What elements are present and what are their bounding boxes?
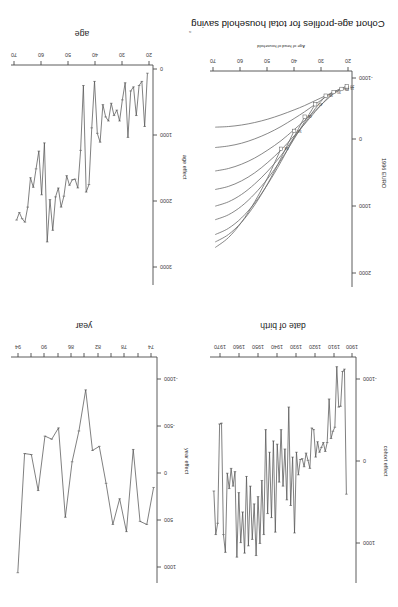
svg-text:60: 60	[237, 58, 243, 64]
year-effect-y-ticks	[157, 379, 161, 567]
svg-text:-1000: -1000	[359, 75, 373, 81]
cohort-profiles-ylabel: 1996 EURO	[381, 158, 387, 189]
svg-text:1900: 1900	[346, 344, 358, 350]
year-effect-y-ticklabels: 1000 500 0 -500 -1000	[164, 376, 178, 570]
cohort-profiles-title: Cohort age-profiles for total household …	[191, 19, 385, 30]
cohort-endpoint-label: 20	[350, 84, 354, 88]
svg-text:1930: 1930	[290, 344, 302, 350]
age-effect-y-ticklabels: 3000 2000 1000 0	[160, 66, 172, 270]
svg-text:1000: 1000	[164, 564, 176, 570]
svg-text:94: 94	[15, 344, 21, 350]
age-effect-points	[15, 73, 148, 242]
svg-text:50: 50	[264, 58, 270, 64]
svg-text:70: 70	[11, 52, 17, 58]
svg-text:50: 50	[65, 52, 71, 58]
svg-text:0: 0	[164, 470, 167, 476]
age-effect-y-ticks	[153, 69, 157, 267]
svg-text:1000: 1000	[363, 540, 375, 546]
cohort-effect-x-ticks	[220, 353, 352, 357]
cohort-endpoint-label: 40	[319, 102, 323, 106]
cohort-profiles-y-ticklabels: 2000 1000 0 -1000	[359, 75, 373, 276]
age-effect-series	[17, 73, 148, 242]
age-effect-plot: 20 30 40 50 60 70 3000 2000 1000 0 age a…	[0, 0, 199, 303]
svg-text:0: 0	[160, 66, 163, 72]
cohort-effect-x-ticklabels: 1900 1910 1920 1930 1940 1950 1960 1970	[214, 344, 358, 350]
svg-text:0: 0	[359, 136, 362, 142]
age-effect-ylabel: age effect	[182, 155, 188, 180]
cohort-endpoint-label: 45	[308, 114, 312, 118]
cohort-effect-y-ticks	[356, 379, 360, 543]
panel-age-effect: 20 30 40 50 60 70 3000 2000 1000 0 age a…	[0, 0, 199, 303]
svg-text:1940: 1940	[271, 344, 283, 350]
cohort-effect-xlabel: date of birth	[260, 321, 306, 331]
svg-text:2000: 2000	[359, 270, 371, 276]
svg-text:40: 40	[92, 52, 98, 58]
cohort-endpoint-marker	[292, 129, 295, 132]
svg-text:90: 90	[41, 344, 47, 350]
cohort-endpoint-marker	[313, 103, 316, 106]
cohort-endpoint-label: 50	[298, 129, 302, 133]
cohort-profiles-xlabel: Age of head of household	[256, 44, 304, 49]
svg-text:30: 30	[119, 52, 125, 58]
svg-text:1000: 1000	[359, 203, 371, 209]
svg-text:60: 60	[38, 52, 44, 58]
age-effect-x-ticks	[14, 61, 149, 65]
year-effect-plot: 74 78 82 86 90 94 1000 500 0 -500 -1000	[0, 303, 199, 607]
panel-cohort-effect: 1900 1910 1920 1930 1940 1950 1960 1970 …	[199, 303, 398, 607]
svg-text:82: 82	[95, 344, 101, 350]
cohort-curve	[215, 149, 281, 248]
cohort-curve	[215, 117, 304, 235]
cohort-curve	[215, 92, 333, 190]
svg-text:1910: 1910	[328, 344, 340, 350]
figure-grid: 1900 1910 1920 1930 1940 1950 1960 1970 …	[0, 0, 398, 607]
cohort-effect-plot: 1900 1910 1920 1930 1940 1950 1960 1970 …	[199, 303, 398, 607]
cohort-profiles-x-ticks	[213, 67, 348, 71]
svg-text:-1000: -1000	[164, 376, 178, 382]
svg-text:1970: 1970	[214, 344, 226, 350]
year-effect-x-ticks	[18, 353, 151, 357]
svg-text:30: 30	[318, 58, 324, 64]
svg-text:20: 20	[146, 52, 152, 58]
svg-text:74: 74	[148, 344, 154, 350]
svg-text:1000: 1000	[160, 132, 172, 138]
rotated-figure-wrapper: 1900 1910 1920 1930 1940 1950 1960 1970 …	[0, 0, 398, 607]
svg-text:78: 78	[121, 344, 127, 350]
svg-text:3000: 3000	[160, 264, 172, 270]
cohort-profiles-curves	[215, 86, 346, 247]
cohort-curve	[215, 104, 315, 219]
age-effect-edge-fragment: a	[188, 30, 191, 35]
year-effect-series	[18, 390, 154, 573]
panel-cohort-profiles: 20 30 40 50 60 70 2000 1000 0 -1000 Age …	[199, 0, 398, 303]
cohort-effect-y-ticklabels: 1000 0 -1000	[363, 376, 377, 546]
cohort-endpoint-label: 35	[329, 93, 333, 97]
cohort-endpoint-marker	[303, 115, 306, 118]
svg-text:20: 20	[345, 58, 351, 64]
svg-text:70: 70	[210, 58, 216, 64]
svg-text:1920: 1920	[309, 344, 321, 350]
age-effect-x-ticklabels: 20 30 40 50 60 70	[11, 52, 152, 58]
cohort-profiles-endpoint-labels: 152025303540455055	[279, 84, 354, 150]
svg-text:1960: 1960	[233, 344, 245, 350]
cohort-endpoint-label: 55	[284, 146, 288, 150]
svg-text:40: 40	[291, 58, 297, 64]
cohort-effect-ylabel: cohort effect	[383, 446, 389, 477]
year-effect-ylabel: year effect	[184, 448, 190, 474]
age-effect-xlabel: age	[75, 29, 90, 39]
cohort-endpoint-label: 25	[345, 87, 349, 91]
svg-text:86: 86	[68, 344, 74, 350]
cohort-profiles-y-ticks	[352, 78, 356, 273]
svg-text:0: 0	[363, 458, 366, 464]
year-effect-x-ticklabels: 74 78 82 86 90 94	[15, 344, 154, 350]
svg-text:-1000: -1000	[363, 376, 377, 382]
year-effect-points	[16, 390, 154, 573]
cohort-endpoint-label: 30	[337, 90, 341, 94]
panel-year-effect: 74 78 82 86 90 94 1000 500 0 -500 -1000	[0, 303, 199, 607]
svg-text:2000: 2000	[160, 198, 172, 204]
svg-text:500: 500	[164, 517, 173, 523]
cohort-effect-series	[214, 367, 347, 557]
cohort-curve	[215, 96, 325, 206]
cohort-endpoint-marker	[324, 94, 327, 97]
year-effect-xlabel: year	[76, 321, 93, 331]
cohort-profiles-x-ticklabels: 20 30 40 50 60 70	[210, 58, 351, 64]
svg-text:1950: 1950	[252, 344, 264, 350]
